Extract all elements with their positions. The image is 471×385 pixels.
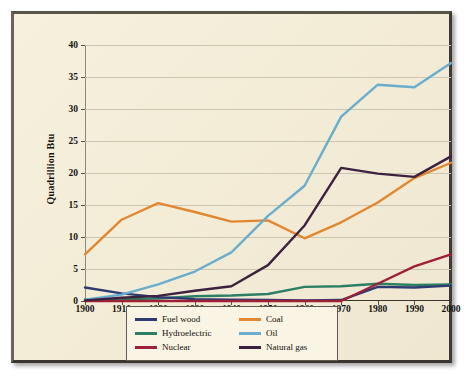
legend-item-fuel-wood[interactable]: Fuel wood <box>135 314 239 324</box>
legend-swatch-icon <box>135 346 157 349</box>
legend-item-oil[interactable]: Oil <box>239 328 339 338</box>
series-line-natural-gas <box>85 156 451 300</box>
legend-swatch-icon <box>239 332 261 335</box>
y-tick-label: 30 <box>69 104 79 114</box>
series-line-coal <box>85 163 451 255</box>
x-tick-label: 1990 <box>405 304 424 314</box>
legend-label: Oil <box>266 328 278 338</box>
y-tick-label: 10 <box>69 232 79 242</box>
legend-swatch-icon <box>239 346 261 349</box>
y-tick-label: 5 <box>73 264 78 274</box>
series-lines <box>85 45 451 301</box>
legend-grid: Fuel woodCoalHydroelectricOilNuclearNatu… <box>135 312 329 354</box>
x-tick-label: 1980 <box>368 304 387 314</box>
legend-item-hydroelectric[interactable]: Hydroelectric <box>135 328 239 338</box>
x-tick-label: 2000 <box>442 304 461 314</box>
legend-item-natural-gas[interactable]: Natural gas <box>239 342 339 352</box>
legend-swatch-icon <box>135 332 157 335</box>
legend-label: Coal <box>266 314 283 324</box>
y-tick-label: 25 <box>69 136 79 146</box>
y-tick-label: 40 <box>69 40 79 50</box>
legend-swatch-icon <box>135 318 157 321</box>
legend-label: Nuclear <box>162 342 190 352</box>
y-tick-label: 20 <box>69 168 79 178</box>
legend-swatch-icon <box>239 318 261 321</box>
legend-label: Hydroelectric <box>162 328 211 338</box>
legend-label: Fuel wood <box>162 314 200 324</box>
y-tick-label: 35 <box>69 72 79 82</box>
y-tick-label: 15 <box>69 200 79 210</box>
x-tick-label: 1900 <box>76 304 95 314</box>
legend-label: Natural gas <box>266 342 307 352</box>
plot-area: 0510152025303540 19001910192019301940195… <box>85 45 451 301</box>
y-axis-title: Quadrillion Btu <box>45 133 56 204</box>
legend-item-coal[interactable]: Coal <box>239 314 339 324</box>
legend-item-nuclear[interactable]: Nuclear <box>135 342 239 352</box>
chart-figure: Quadrillion Btu 0510152025303540 1900191… <box>0 0 471 385</box>
chart-legend: Fuel woodCoalHydroelectricOilNuclearNatu… <box>126 306 338 361</box>
